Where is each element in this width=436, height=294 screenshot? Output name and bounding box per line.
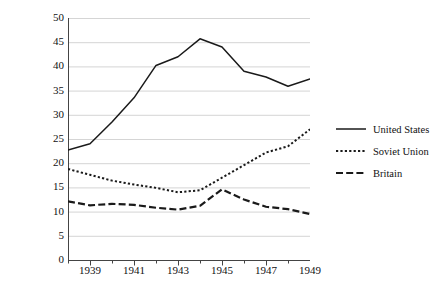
x-axis-tick-labels: 193919411943194519471949 [0, 264, 436, 284]
solid-line-key [336, 124, 366, 134]
chart-figure: % of European capabilities 0510152025303… [0, 0, 436, 294]
y-tick-label: 20 [40, 157, 64, 168]
legend-item-britain[interactable]: Britain [336, 162, 436, 184]
plot-svg [68, 18, 310, 268]
plot-area [68, 18, 310, 260]
y-tick-label: 45 [40, 36, 64, 47]
y-tick-label: 35 [40, 85, 64, 96]
dotted-line-key [336, 146, 366, 156]
y-tick-label: 40 [40, 60, 64, 71]
legend-item-soviet-union[interactable]: Soviet Union [336, 140, 436, 162]
y-tick-label: 15 [40, 181, 64, 192]
x-tick-label: 1949 [287, 264, 333, 277]
y-tick-label: 25 [40, 133, 64, 144]
chart-legend: United StatesSoviet UnionBritain [336, 118, 436, 184]
y-tick-label: 50 [40, 12, 64, 23]
legend-item-united-states[interactable]: United States [336, 118, 436, 140]
series-line-britain [68, 189, 310, 214]
y-axis-tick-labels: 05101520253035404550 [26, 0, 64, 294]
y-tick-label: 10 [40, 206, 64, 217]
y-tick-label: 5 [40, 230, 64, 241]
x-tick-label: 1945 [199, 264, 245, 277]
x-tick-label: 1941 [111, 264, 157, 277]
x-tick-label: 1939 [67, 264, 113, 277]
legend-label: Britain [373, 168, 402, 179]
y-tick-label: 30 [40, 109, 64, 120]
series-line-soviet-union [68, 129, 310, 192]
dashed-line-key [336, 168, 366, 178]
series-line-united-states [68, 39, 310, 150]
x-tick-label: 1943 [155, 264, 201, 277]
legend-label: United States [373, 124, 429, 135]
x-tick-label: 1947 [243, 264, 289, 277]
legend-label: Soviet Union [373, 146, 429, 157]
